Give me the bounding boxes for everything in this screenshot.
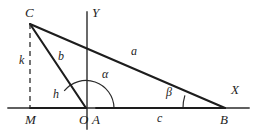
angle-label-beta: β: [166, 86, 172, 98]
y-axis-label: Y: [92, 6, 99, 19]
figure-canvas: [0, 0, 257, 136]
vertex-label-c: C: [25, 6, 34, 19]
x-axis-label: X: [231, 83, 239, 96]
alpha-angle-arc: [64, 80, 114, 108]
side-label-b: b: [58, 50, 64, 62]
side-label-h: h: [53, 88, 59, 100]
geometry-figure: C M O A B X Y a b h k c α β: [0, 0, 257, 136]
beta-angle-arc: [183, 95, 185, 108]
vertex-label-o: O: [79, 113, 88, 126]
vertex-label-m: M: [25, 113, 36, 126]
side-label-c: c: [157, 112, 162, 124]
angle-label-alpha: α: [102, 68, 108, 80]
vertex-label-b: B: [220, 113, 228, 126]
vertex-label-a: A: [92, 113, 100, 126]
side-label-k: k: [19, 54, 24, 66]
side-label-a: a: [131, 45, 137, 57]
